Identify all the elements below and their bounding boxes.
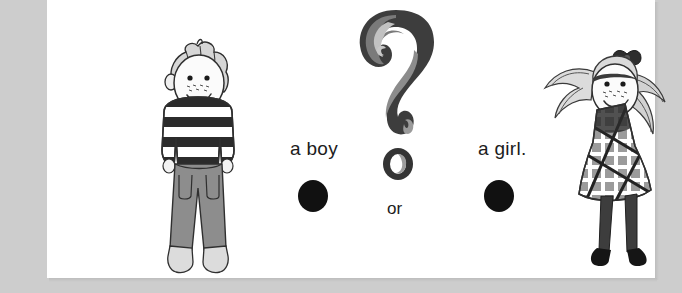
choice-label-girl: a girl.: [478, 138, 527, 160]
boy-eye-right-icon: [204, 75, 209, 80]
girl-eye-left-icon: [604, 81, 609, 86]
boy-pants: [170, 164, 226, 250]
boy-hand-left-icon: [163, 159, 175, 173]
worksheet-page-card: a boy or a girl.: [47, 0, 655, 278]
girl-eye-right-icon: [620, 81, 625, 86]
question-mark-icon: [352, 4, 444, 194]
girl-legs: [599, 194, 637, 252]
girl-pigtail-left-icon: [545, 69, 595, 118]
question-mark-dot: [383, 148, 413, 180]
boy-shoes: [168, 246, 228, 273]
connector-label-or: or: [387, 199, 402, 219]
worksheet-root: a boy or a girl.: [0, 0, 682, 293]
page-shadow-bottom: [49, 278, 657, 282]
girl-figure-illustration: [539, 38, 671, 278]
girl-shoes: [591, 248, 647, 266]
answer-bubble-boy[interactable]: [298, 180, 328, 212]
boy-eye-left-icon: [187, 75, 192, 80]
boy-figure-illustration: [142, 38, 254, 276]
choice-label-boy: a boy: [290, 138, 338, 160]
answer-bubble-girl[interactable]: [484, 180, 514, 212]
